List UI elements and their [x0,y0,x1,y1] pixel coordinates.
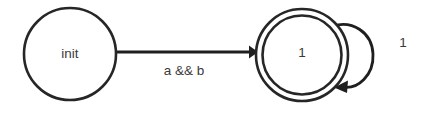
state-node-init[interactable]: init [24,8,116,100]
state-label-1: 1 [298,45,306,60]
state-machine-diagram: init 1 a && b 1 [0,0,432,114]
transition-label-a-and-b: a && b [164,63,205,78]
state-node-1[interactable]: 1 [256,9,348,101]
state-label-init: init [61,46,79,61]
diagram-canvas: init 1 a && b 1 [0,0,432,114]
transition-init-to-state-1[interactable] [116,46,258,59]
transition-label-self-loop: 1 [399,35,407,50]
